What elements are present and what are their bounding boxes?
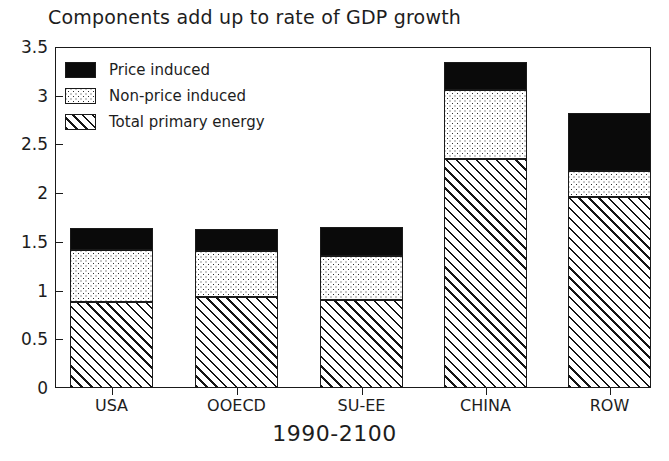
bar-segment-non-price-induced: [320, 256, 403, 300]
bar-segment-non-price-induced: [195, 251, 278, 298]
bar-segment-price-induced: [320, 227, 403, 256]
bar-segment-total-primary-energy: [568, 197, 651, 388]
legend-label: Total primary energy: [109, 112, 265, 132]
x-tick-mark: [486, 388, 487, 395]
x-tick-label-row: ROW: [590, 396, 630, 415]
x-tick-label-usa: USA: [95, 396, 128, 415]
y-tick-label: 0.5: [0, 329, 48, 349]
bar-segment-price-induced: [444, 62, 527, 90]
bar-su-ee: [320, 47, 403, 388]
y-tick-label: 2: [0, 183, 48, 203]
legend-swatch-icon: [65, 62, 96, 78]
legend-item: Price induced: [65, 60, 315, 82]
x-tick-mark: [112, 388, 113, 395]
legend-swatch-icon: [65, 114, 96, 130]
y-tick-mark: [55, 242, 63, 243]
chart-figure: Components add up to rate of GDP growth …: [0, 0, 669, 461]
bar-row: [568, 47, 651, 388]
x-tick-mark: [362, 388, 363, 395]
x-tick-label-su-ee: SU-EE: [338, 396, 386, 415]
y-tick-mark: [55, 339, 63, 340]
y-tick-label: 3: [0, 86, 48, 106]
bar-segment-total-primary-energy: [320, 300, 403, 388]
y-tick-label: 0: [0, 378, 48, 398]
bar-segment-non-price-induced: [568, 171, 651, 197]
legend-item: Total primary energy: [65, 112, 315, 134]
bar-segment-non-price-induced: [70, 250, 153, 303]
y-tick-label: 3.5: [0, 37, 48, 57]
bar-segment-price-induced: [70, 228, 153, 249]
y-tick-mark: [55, 193, 63, 194]
x-tick-mark: [237, 388, 238, 395]
bar-segment-total-primary-energy: [70, 302, 153, 388]
bar-segment-total-primary-energy: [444, 159, 527, 388]
chart-title: Components add up to rate of GDP growth: [48, 6, 461, 28]
y-tick-label: 2.5: [0, 134, 48, 154]
bar-segment-total-primary-energy: [195, 297, 278, 388]
bar-segment-price-induced: [195, 229, 278, 250]
x-axis-title: 1990-2100: [0, 421, 669, 446]
legend-label: Price induced: [109, 60, 210, 80]
y-tick-label: 1.5: [0, 232, 48, 252]
legend-swatch-icon: [65, 88, 96, 104]
x-tick-label-ooecd: OOECD: [207, 396, 266, 415]
x-tick-label-china: CHINA: [460, 396, 511, 415]
x-tick-mark: [610, 388, 611, 395]
bar-segment-price-induced: [568, 113, 651, 170]
legend-item: Non-price induced: [65, 86, 315, 108]
bar-segment-non-price-induced: [444, 90, 527, 159]
bar-china: [444, 47, 527, 388]
y-tick-label: 1: [0, 281, 48, 301]
chart-legend: Price inducedNon-price inducedTotal prim…: [65, 60, 315, 138]
y-tick-mark: [55, 96, 63, 97]
legend-label: Non-price induced: [109, 86, 246, 106]
y-tick-mark: [55, 144, 63, 145]
y-tick-mark: [55, 291, 63, 292]
